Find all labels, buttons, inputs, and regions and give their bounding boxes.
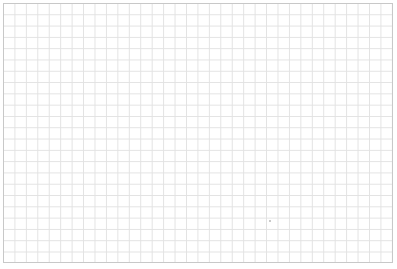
dot-marker [269, 220, 271, 222]
grid-paper [3, 3, 393, 263]
